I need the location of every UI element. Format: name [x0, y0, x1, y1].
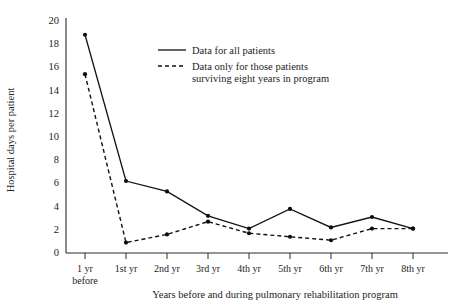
x-tick-label: 1st yr	[115, 263, 138, 274]
series-line-dashed	[85, 74, 413, 242]
data-point	[206, 220, 210, 224]
y-tick-label: 8	[54, 154, 59, 165]
data-point	[247, 227, 251, 231]
x-tick-label-sub: before	[72, 275, 98, 286]
chart-figure: 20 18 16 14 12 10 8 6 4 2 0 Hospital day…	[0, 0, 459, 308]
legend-label-dashed-line2: surviving eight years in program	[192, 73, 329, 84]
y-axis-title: Hospital days per patient	[5, 88, 16, 193]
data-point	[370, 227, 374, 231]
data-point	[370, 215, 374, 219]
legend-label-dashed: Data only for those patients	[192, 61, 308, 72]
x-tick-label: 8th yr	[401, 263, 425, 274]
data-point	[247, 231, 251, 235]
y-tick-label: 2	[54, 224, 59, 235]
data-point	[288, 235, 292, 239]
data-point	[83, 72, 87, 76]
y-tick-label: 18	[49, 38, 60, 49]
data-point	[288, 207, 292, 211]
data-point	[329, 238, 333, 242]
x-tick-labels: 1 yr before 1st yr 2nd yr 3rd yr 4th yr …	[72, 263, 425, 286]
x-tick-label: 2nd yr	[154, 263, 181, 274]
data-point	[411, 227, 415, 231]
y-tick-labels: 20 18 16 14 12 10 8 6 4 2 0	[49, 15, 60, 258]
y-tick-label: 16	[49, 61, 60, 72]
y-tick-label: 6	[54, 177, 59, 188]
data-point	[124, 179, 128, 183]
x-tick-label: 5th yr	[278, 263, 302, 274]
data-point	[165, 189, 169, 193]
x-axis-group: 1 yr before 1st yr 2nd yr 3rd yr 4th yr …	[66, 253, 448, 300]
y-tick-label: 10	[49, 131, 60, 142]
data-point	[206, 214, 210, 218]
line-chart-svg: 20 18 16 14 12 10 8 6 4 2 0 Hospital day…	[0, 0, 459, 308]
x-tick-label: 6th yr	[319, 263, 343, 274]
y-tick-label: 0	[54, 247, 59, 258]
legend-label-solid: Data for all patients	[192, 45, 275, 56]
data-point	[329, 225, 333, 229]
y-tick-label: 4	[54, 201, 60, 212]
y-tick-label: 14	[49, 85, 60, 96]
x-axis-title: Years before and during pulmonary rehabi…	[152, 289, 398, 300]
data-point	[165, 232, 169, 236]
x-tick-label: 7th yr	[360, 263, 384, 274]
x-tick-label: 3rd yr	[196, 263, 221, 274]
data-point	[124, 240, 128, 244]
x-tick-label: 1 yr	[77, 263, 94, 274]
data-point	[83, 33, 87, 37]
x-tick-label: 4th yr	[237, 263, 261, 274]
legend: Data for all patients Data only for thos…	[158, 45, 329, 84]
y-tick-label: 12	[49, 108, 60, 119]
y-tick-label: 20	[49, 15, 60, 26]
y-axis-group: 20 18 16 14 12 10 8 6 4 2 0 Hospital day…	[5, 15, 66, 258]
